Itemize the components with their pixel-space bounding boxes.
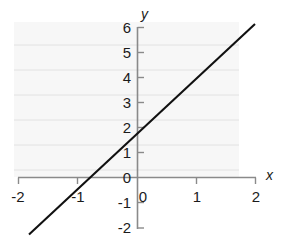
- y-tick-label-4: 4: [123, 69, 131, 86]
- y-tick-label-3: 3: [123, 94, 131, 111]
- line-chart: 6 5 4 3 2 1 0 -1 -2 -2 -1 0 1 2 y x: [0, 0, 287, 241]
- y-tick-label-5: 5: [123, 44, 131, 61]
- y-tick-label-0: 0: [123, 169, 131, 186]
- x-tick-label-2: 2: [252, 188, 260, 205]
- chart-canvas: 6 5 4 3 2 1 0 -1 -2 -2 -1 0 1 2 y x: [0, 0, 287, 241]
- y-tick-label-6: 6: [123, 19, 131, 36]
- x-tick-label-neg1: -1: [71, 188, 84, 205]
- y-axis-label: y: [140, 6, 149, 22]
- x-axis-label: x: [265, 167, 274, 183]
- y-tick-label-1: 1: [123, 144, 131, 161]
- x-tick-label-neg2: -2: [11, 188, 24, 205]
- y-tick-label-neg1: -1: [118, 194, 131, 211]
- y-tick-label-neg2: -2: [118, 219, 131, 236]
- x-tick-label-0: 0: [139, 188, 147, 205]
- y-tick-label-2: 2: [123, 119, 131, 136]
- x-tick-label-1: 1: [193, 188, 201, 205]
